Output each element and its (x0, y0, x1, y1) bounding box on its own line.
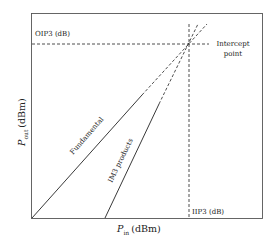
x-axis-label: Pin(dBm) (116, 223, 161, 236)
intercept-label-line2: point (224, 50, 242, 58)
fundamental-extrapolation (142, 24, 207, 95)
ip3-diagram: OIP3 (dB) IIP3 (dB) Intercept point Fund… (0, 0, 277, 250)
im3-line (105, 104, 159, 218)
y-axis-label: Pout(dBm) (16, 98, 29, 147)
im3-label: IM3 products (107, 137, 135, 184)
im3-extrapolation (159, 24, 198, 104)
intercept-label-line1: Intercept (217, 40, 250, 48)
iip3-label: IIP3 (dB) (192, 208, 224, 216)
oip3-label: OIP3 (dB) (35, 30, 70, 38)
fundamental-label: Fundamental (68, 115, 105, 156)
